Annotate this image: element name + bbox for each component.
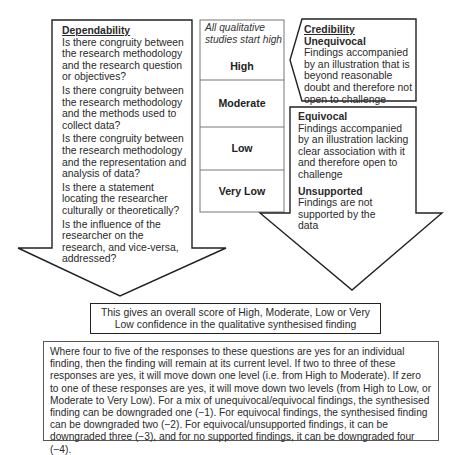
dependability-question: Is there a statement locating the resear… [62,182,182,217]
dependability-question: Is there congruity between the research … [62,133,194,179]
equivocal-label: Equivocal [298,111,414,123]
unequivocal-label: Unequivocal [304,36,416,48]
dependability-question: Is there congruity between the research … [62,37,194,83]
dependability-title: Dependability [62,25,194,37]
credibility-title: Credibility [304,24,416,36]
levels-note: All qualitative studies start high [205,22,283,46]
credibility-panel: Credibility Unequivocal Findings accompa… [304,24,416,107]
level-column [200,20,284,212]
level-low: Low [200,142,284,154]
unequivocal-text: Findings accompanied by an illustration … [304,47,416,105]
level-very-low: Very Low [200,185,284,197]
equivocal-panel: Equivocal Findings accompanied by an ill… [298,111,414,234]
unsupported-text: Findings are not supported by the data [298,197,398,232]
dependability-question: Is there congruity between the research … [62,85,194,131]
dependability-question: Is the influence of the researcher on th… [62,219,182,265]
equivocal-text: Findings accompanied by an illustration … [298,123,414,181]
level-moderate: Moderate [200,97,284,109]
rules-box: Where four to five of the responses to t… [43,341,439,441]
dependability-panel: Dependability Is there congruity between… [62,25,194,267]
unsupported-label: Unsupported [298,186,414,198]
summary-box: This gives an overall score of High, Mod… [90,303,381,334]
level-high: High [200,60,284,72]
